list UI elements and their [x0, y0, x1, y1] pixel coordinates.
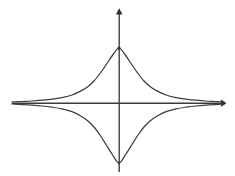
plot-background: [0, 0, 235, 176]
upper-cusp-point: [118, 47, 121, 50]
plot-svg: [0, 0, 235, 176]
figure-canvas: [0, 0, 235, 176]
lower-cusp-point: [118, 162, 120, 164]
